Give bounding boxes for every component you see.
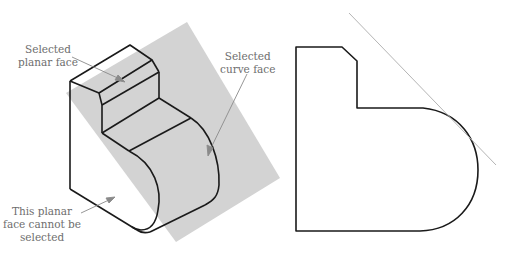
- arrowhead-icon: [106, 197, 115, 203]
- label-cannot-select: This planar face cannot be selected: [3, 205, 81, 244]
- diagram-figure: Selected planar face Selected curve face…: [0, 0, 506, 256]
- label-selected-planar-face: Selected planar face: [18, 43, 78, 69]
- profile-view: [296, 47, 478, 231]
- label-selected-curve-face: Selected curve face: [220, 50, 275, 76]
- tangent-line: [349, 13, 496, 165]
